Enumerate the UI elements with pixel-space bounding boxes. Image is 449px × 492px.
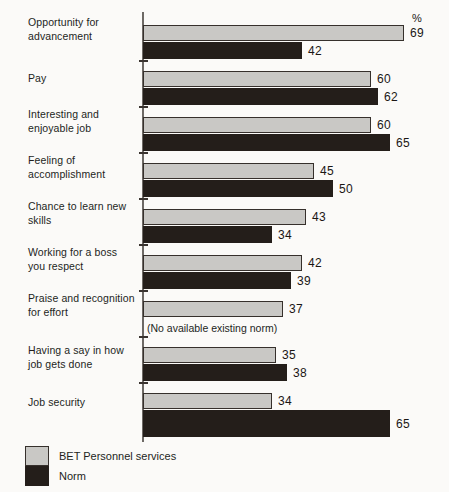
bar-bet-personnel-services: [143, 347, 276, 363]
bar-norm: [143, 226, 272, 243]
chart-row: Chance to learn new skills 43 34: [0, 198, 449, 244]
chart-row: Interesting and enjoyable job 60 65: [0, 106, 449, 152]
category-label: Opportunity for advancement: [28, 16, 138, 43]
horizontal-bar-chart: % Opportunity for advancement 69 42 Pay …: [0, 0, 449, 492]
bar-value-norm: 38: [293, 367, 307, 379]
axis-tick: [139, 244, 148, 246]
bar-value-norm: 65: [396, 137, 410, 149]
category-label: Working for a boss you respect: [28, 246, 138, 273]
bar-bet-personnel-services: [143, 393, 272, 409]
bar-value-bet: 69: [410, 27, 424, 39]
axis-tick: [139, 106, 148, 108]
bar-bet-personnel-services: [143, 25, 404, 41]
bar-value-norm: 39: [297, 275, 311, 287]
bar-value-norm: 62: [384, 91, 398, 103]
bar-value-bet: 34: [278, 395, 292, 407]
bar-value-bet: 60: [377, 119, 391, 131]
chart-row: Having a say in how job gets done 35 38: [0, 336, 449, 382]
bar-bet-personnel-services: [143, 301, 283, 317]
bar-value-bet: 42: [308, 257, 322, 269]
axis-tick: [139, 198, 148, 200]
category-label: Chance to learn new skills: [28, 200, 138, 227]
axis-tick: [139, 60, 148, 62]
bar-bet-personnel-services: [143, 209, 306, 225]
chart-row: Pay 60 62: [0, 60, 449, 106]
bar-norm: [143, 364, 287, 381]
bar-bet-personnel-services: [143, 163, 314, 179]
category-label: Praise and recognition for effort: [28, 292, 138, 319]
axis-tick: [139, 336, 148, 338]
category-label: Feeling of accomplishment: [28, 154, 138, 181]
axis-tick: [139, 290, 148, 292]
chart-row: Feeling of accomplishment 45 50: [0, 152, 449, 198]
bar-norm: [143, 410, 390, 437]
axis-tick: [139, 382, 148, 384]
bar-value-norm: 42: [308, 45, 322, 57]
category-label: Having a say in how job gets done: [28, 344, 138, 371]
bar-value-norm: 65: [396, 418, 410, 430]
bar-norm: [143, 88, 378, 105]
bar-value-bet: 43: [312, 211, 326, 223]
bar-norm: [143, 42, 302, 59]
bar-norm: [143, 180, 333, 197]
chart-row: Job security 34 65: [0, 382, 449, 428]
bar-bet-personnel-services: [143, 255, 302, 271]
bar-value-bet: 35: [282, 349, 296, 361]
bar-bet-personnel-services: [143, 71, 371, 87]
bar-value-bet: 37: [289, 303, 303, 315]
black-swatch-icon: [25, 466, 49, 486]
chart-row: Praise and recognition for effort 37 (No…: [0, 290, 449, 336]
legend-label: Norm: [59, 469, 86, 483]
category-label: Job security: [28, 396, 138, 410]
axis-tick: [139, 152, 148, 154]
chart-row: Opportunity for advancement 69 42: [0, 14, 449, 60]
no-norm-annotation: (No available existing norm): [147, 322, 277, 334]
bar-value-bet: 45: [320, 165, 334, 177]
light-gray-swatch-icon: [25, 446, 49, 466]
bar-bet-personnel-services: [143, 117, 371, 133]
bar-norm: [143, 272, 291, 289]
bar-norm: [143, 134, 390, 151]
bar-value-bet: 60: [377, 73, 391, 85]
legend-label: BET Personnel services: [59, 449, 176, 463]
chart-row: Working for a boss you respect 42 39: [0, 244, 449, 290]
category-label: Interesting and enjoyable job: [28, 108, 138, 135]
bar-value-norm: 50: [339, 183, 353, 195]
bar-value-norm: 34: [278, 229, 292, 241]
category-label: Pay: [28, 72, 138, 86]
